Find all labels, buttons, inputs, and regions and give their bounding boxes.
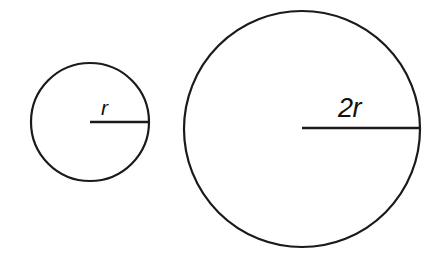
circles-diagram-canvas bbox=[0, 0, 442, 264]
large-circle-radius-label: 2r bbox=[338, 95, 361, 122]
small-circle-radius-label: r bbox=[101, 97, 108, 118]
geometry-figure: r 2r bbox=[0, 0, 442, 264]
